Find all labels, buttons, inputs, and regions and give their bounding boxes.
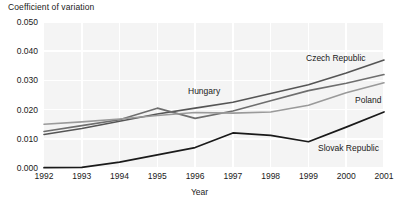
- series-label: Czech Republic: [306, 53, 366, 63]
- x-axis-tick-label: 1996: [175, 171, 215, 181]
- x-axis-tick-label: 1993: [62, 171, 102, 181]
- series-line: [44, 75, 384, 132]
- x-axis-tick-label: 1992: [24, 171, 64, 181]
- x-axis-tick-label: 1997: [213, 171, 253, 181]
- series-label: Hungary: [188, 86, 220, 96]
- y-axis-tick-label: 0.040: [0, 46, 38, 56]
- x-axis-title: Year: [0, 187, 399, 197]
- y-axis-tick-label: 0.020: [0, 105, 38, 115]
- chart-container: Coefficient of variation 0.0000.0100.020…: [0, 0, 399, 201]
- y-axis-title: Coefficient of variation: [8, 2, 94, 12]
- y-axis-tick-label: 0.050: [0, 17, 38, 27]
- y-axis-tick-label: 0.030: [0, 75, 38, 85]
- series-label: Poland: [355, 95, 381, 105]
- x-axis-tick-label: 2001: [364, 171, 399, 181]
- y-axis-tick-label: 0.010: [0, 134, 38, 144]
- x-axis-tick-label: 1995: [137, 171, 177, 181]
- x-axis-tick-label: 2000: [326, 171, 366, 181]
- series-label: Slovak Republic: [318, 143, 379, 153]
- x-axis-tick-label: 1998: [251, 171, 291, 181]
- x-axis-tick-label: 1999: [288, 171, 328, 181]
- x-axis-tick-label: 1994: [100, 171, 140, 181]
